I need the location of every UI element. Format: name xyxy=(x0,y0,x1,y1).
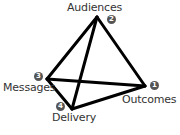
node-label-delivery: Delivery xyxy=(52,112,96,123)
node-number-badge-4: 4 xyxy=(56,102,65,111)
node-label-messages: Messages xyxy=(3,82,55,93)
edge-messages-outcomes xyxy=(47,79,145,86)
node-label-audiences: Audiences xyxy=(67,2,122,13)
node-number-badge-3: 3 xyxy=(34,72,43,81)
node-number-badge-2: 2 xyxy=(107,15,116,24)
node-number-badge-1: 1 xyxy=(150,81,159,90)
edge-audiences-outcomes xyxy=(97,17,145,86)
node-label-outcomes: Outcomes xyxy=(122,94,176,105)
